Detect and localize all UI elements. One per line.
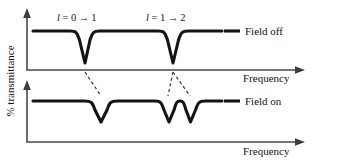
transition-2-equals: = 1 (149, 12, 165, 23)
transition-2-arrow: → (168, 12, 179, 23)
transition-label-1: l = 0→1 (57, 12, 97, 23)
transition-label-2-group: l = 1→2 (146, 12, 186, 23)
top-x-axis-title: Frequency (243, 72, 290, 84)
transition-1-equals: = 0 (60, 12, 76, 23)
y-axis-title: % transmittance (4, 45, 16, 116)
connector-line-1 (85, 72, 101, 96)
bottom-legend-group: Field on (224, 95, 282, 107)
transition-1-end: 1 (91, 12, 96, 23)
bottom-spectrum-group (33, 101, 222, 122)
transition-label-1-group: l = 0→1 (57, 12, 97, 23)
transition-1-arrow: → (79, 12, 90, 23)
bottom-spectrum-trace (33, 101, 222, 122)
bottom-x-axis-title: Frequency (243, 145, 290, 157)
transition-2-end: 2 (180, 12, 185, 23)
correlation-connectors (85, 72, 190, 96)
top-legend-group: Field off (224, 25, 283, 37)
figure-canvas: Field off l = 0→1 l = 1→2 Frequency (0, 0, 349, 162)
top-y-axis-arrowhead (23, 8, 31, 18)
transition-label-2: l = 1→2 (146, 12, 186, 23)
field-on-label: Field on (245, 95, 282, 107)
bottom-y-axis-arrowhead (23, 80, 31, 90)
field-off-label: Field off (245, 25, 283, 37)
top-x-axis-arrowhead (295, 66, 305, 74)
connector-line-2 (168, 72, 173, 96)
spectroscopy-figure: Field off l = 0→1 l = 1→2 Frequency (0, 0, 349, 162)
connector-line-3 (173, 72, 190, 96)
bottom-x-axis-arrowhead (295, 138, 305, 146)
top-spectrum-trace (33, 31, 222, 63)
top-spectrum-group (33, 31, 222, 63)
